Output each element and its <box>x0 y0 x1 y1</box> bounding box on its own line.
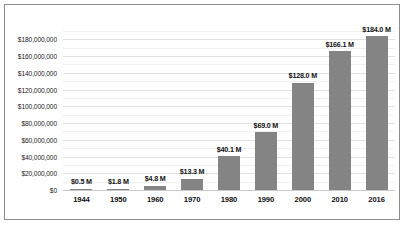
bar[interactable] <box>70 189 92 190</box>
bar[interactable] <box>329 51 351 190</box>
x-axis: 194419501960197019801990200020102016 <box>63 193 395 209</box>
bar[interactable] <box>107 189 129 191</box>
chart-frame: $0$20,000,000$40,000,000$60,000,000$80,0… <box>4 4 400 220</box>
bar[interactable] <box>255 132 277 190</box>
bar-value-label: $1.8 M <box>108 177 129 186</box>
y-axis: $0$20,000,000$40,000,000$60,000,000$80,0… <box>5 31 61 190</box>
bar-value-label: $166.1 M <box>325 40 353 49</box>
x-axis-tick-label: 1950 <box>110 195 127 204</box>
x-axis-tick-label: 2010 <box>331 195 348 204</box>
x-axis-tick-label: 1944 <box>73 195 90 204</box>
x-axis-tick-label: 2000 <box>295 195 312 204</box>
bar[interactable] <box>181 179 203 190</box>
bar[interactable] <box>292 83 314 190</box>
bar[interactable] <box>218 156 240 190</box>
bar-value-label: $0.5 M <box>71 177 92 186</box>
x-axis-tick-label: 1990 <box>258 195 275 204</box>
bar-value-label: $184.0 M <box>362 25 390 34</box>
y-axis-tick-label: $100,000,000 <box>18 103 57 110</box>
bar[interactable] <box>366 36 388 190</box>
x-axis-tick-label: 1970 <box>184 195 201 204</box>
bar-group: $128.0 M <box>284 31 321 190</box>
x-axis-tick-label: 1960 <box>147 195 164 204</box>
y-axis-tick-label: $0 <box>50 187 57 194</box>
bar-group: $166.1 M <box>321 31 358 190</box>
bar[interactable] <box>144 186 166 190</box>
y-axis-tick-label: $20,000,000 <box>21 170 57 177</box>
bar-group: $184.0 M <box>358 31 395 190</box>
bar-group: $13.3 M <box>174 31 211 190</box>
bar-value-label: $13.3 M <box>180 167 205 176</box>
y-axis-tick-label: $140,000,000 <box>18 69 57 76</box>
bar-value-label: $4.8 M <box>145 174 166 183</box>
bar-value-label: $40.1 M <box>217 145 242 154</box>
bar-group: $40.1 M <box>211 31 248 190</box>
y-axis-tick-label: $60,000,000 <box>21 136 57 143</box>
bar-group: $1.8 M <box>100 31 137 190</box>
y-axis-tick-label: $40,000,000 <box>21 153 57 160</box>
axis-baseline <box>63 190 395 191</box>
y-axis-tick-label: $80,000,000 <box>21 120 57 127</box>
x-axis-tick-label: 2016 <box>368 195 385 204</box>
y-axis-tick-label: $160,000,000 <box>18 53 57 60</box>
bar-group: $69.0 M <box>247 31 284 190</box>
bar-group: $0.5 M <box>63 31 100 190</box>
y-axis-tick-label: $180,000,000 <box>18 36 57 43</box>
bar-value-label: $69.0 M <box>254 121 279 130</box>
y-axis-tick-label: $120,000,000 <box>18 86 57 93</box>
bar-group: $4.8 M <box>137 31 174 190</box>
x-axis-tick-label: 1980 <box>221 195 238 204</box>
bar-value-label: $128.0 M <box>289 71 317 80</box>
plot-area: $0.5 M$1.8 M$4.8 M$13.3 M$40.1 M$69.0 M$… <box>63 31 395 190</box>
